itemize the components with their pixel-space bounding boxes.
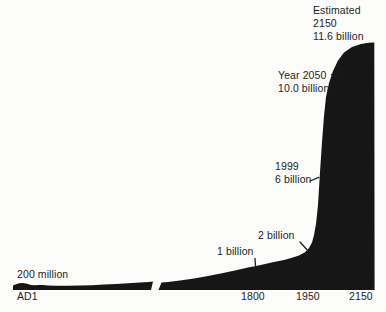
annotation-line: Estimated <box>313 4 364 17</box>
x-axis-label-2150: 2150 <box>349 290 373 303</box>
annotation-2-billion: 2 billion <box>258 229 295 242</box>
annotation-line: Year 2050 <box>278 69 329 82</box>
annotation-estimated-2150: Estimated 2150 11.6 billion <box>313 4 364 43</box>
annotation-line: 10.0 billion <box>278 82 329 95</box>
x-axis-label-1800: 1800 <box>241 290 265 303</box>
annotation-1999: 1999 6 billion <box>275 160 312 186</box>
area-chart-svg <box>0 0 386 312</box>
tick-2-billion <box>300 242 307 250</box>
population-growth-chart: Estimated 2150 11.6 billion Year 2050 10… <box>0 0 386 312</box>
annotation-line: 2150 <box>313 17 364 30</box>
annotation-1-billion: 1 billion <box>217 245 254 258</box>
population-area-left-segment <box>13 282 153 290</box>
annotation-line: 1999 <box>275 160 312 173</box>
x-axis-label-ad1: AD1 <box>17 290 38 303</box>
annotation-line: 11.6 billion <box>313 30 364 43</box>
population-area-right-segment <box>159 43 375 291</box>
tick-1-billion <box>255 259 256 267</box>
annotation-line: 6 billion <box>275 173 312 186</box>
x-axis-label-1950: 1950 <box>296 290 320 303</box>
annotation-year-2050: Year 2050 10.0 billion <box>278 69 329 95</box>
annotation-200-million: 200 million <box>17 268 68 281</box>
